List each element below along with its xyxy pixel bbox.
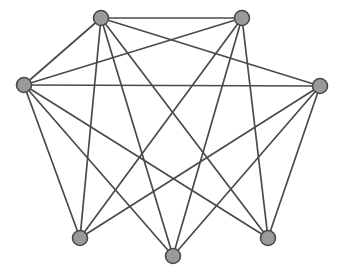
graph-vertex-left (17, 78, 32, 93)
graph-background (0, 0, 342, 275)
graph-vertex-bottom-right (261, 231, 276, 246)
graph-vertex-top-left (94, 11, 109, 26)
graph-figure (0, 0, 342, 275)
graph-vertex-top-right (235, 11, 250, 26)
graph-vertex-bottom-center (166, 249, 181, 264)
graph-vertex-bottom-left (73, 231, 88, 246)
graph-canvas (0, 0, 342, 275)
graph-edge (24, 85, 320, 86)
graph-vertex-right (313, 79, 328, 94)
